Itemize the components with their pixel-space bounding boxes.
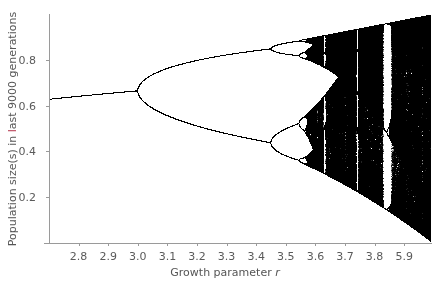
x-tick-label: 3.8: [366, 250, 384, 263]
plot-area: [0, 0, 440, 289]
x-axis-label: Growth parameter r: [0, 266, 440, 279]
x-tick-label: 3.4: [247, 250, 265, 263]
x-tick-label: 2.9: [99, 250, 117, 263]
x-tick-label: 5.9: [395, 250, 413, 263]
y-axis-label-highlight: l: [6, 129, 19, 132]
x-tick-label: 3.3: [218, 250, 236, 263]
x-tick-label: 3.6: [307, 250, 325, 263]
y-axis-label: Population size(s) in last 9000 generati…: [6, 12, 19, 246]
x-axis-label-text: Growth parameter: [170, 266, 275, 279]
x-axis-label-variable: r: [275, 266, 280, 279]
x-tick-label: 3.7: [336, 250, 354, 263]
bifurcation-chart: 0.20.40.60.8 2.82.93.03.13.23.33.43.53.6…: [0, 0, 440, 289]
x-tick-label: 3.1: [159, 250, 177, 263]
x-tick-label: 3.5: [277, 250, 295, 263]
y-axis-label-before: Population size(s) in: [6, 132, 19, 246]
x-tick-label: 3.2: [188, 250, 206, 263]
x-tick-label: 2.8: [70, 250, 88, 263]
y-axis-label-after: ast 9000 generations: [6, 12, 19, 129]
x-tick-label: 3.0: [129, 250, 147, 263]
